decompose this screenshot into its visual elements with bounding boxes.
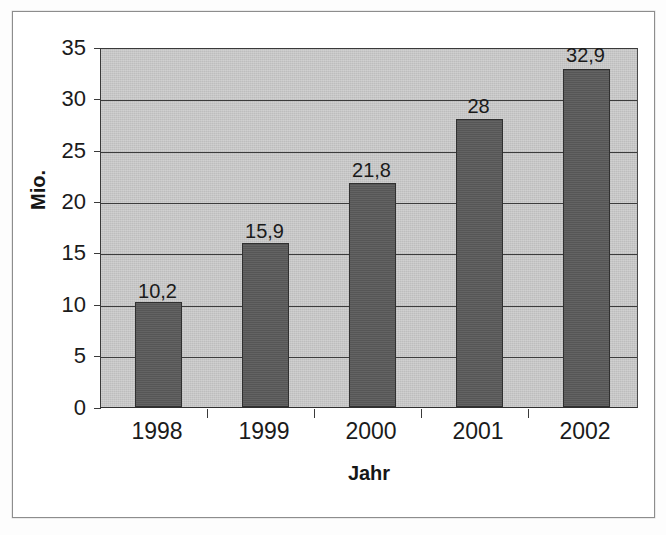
bar-1999 xyxy=(242,243,289,407)
y-tick-label-0: 0 xyxy=(40,397,86,419)
figure-container: 10,2 15,9 21,8 28 32,9 35 30 25 20 15 10… xyxy=(0,0,666,535)
x-tick-label-2000: 2000 xyxy=(311,418,431,444)
bar-value-label-1998: 10,2 xyxy=(94,281,221,301)
x-tick-mark-2 xyxy=(314,409,315,418)
x-tick-mark-3 xyxy=(421,409,422,418)
y-tick-label-30: 30 xyxy=(40,88,86,110)
x-tick-mark-4 xyxy=(528,409,529,418)
y-tick-mark-15 xyxy=(94,253,101,254)
x-tick-label-2001: 2001 xyxy=(418,418,538,444)
x-tick-label-1998: 1998 xyxy=(97,418,217,444)
bar-value-label-2000: 21,8 xyxy=(308,160,435,180)
bar-2000 xyxy=(349,183,396,407)
y-tick-label-10: 10 xyxy=(40,294,86,316)
bar-2001 xyxy=(456,119,503,407)
bar-value-label-2002: 32,9 xyxy=(522,45,649,65)
y-tick-label-5: 5 xyxy=(40,345,86,367)
y-tick-mark-25 xyxy=(94,151,101,152)
plot-area xyxy=(100,48,638,408)
bar-chart: 10,2 15,9 21,8 28 32,9 35 30 25 20 15 10… xyxy=(0,0,666,535)
y-tick-mark-10 xyxy=(94,305,101,306)
y-tick-mark-35 xyxy=(94,48,101,49)
y-tick-mark-30 xyxy=(94,99,101,100)
x-axis-title: Jahr xyxy=(269,462,469,485)
x-tick-label-2002: 2002 xyxy=(525,418,645,444)
y-tick-label-15: 15 xyxy=(40,242,86,264)
y-axis-title: Mio. xyxy=(27,140,50,240)
y-tick-mark-5 xyxy=(94,356,101,357)
x-tick-mark-1 xyxy=(207,409,208,418)
bar-value-label-1999: 15,9 xyxy=(201,221,328,241)
y-tick-label-35: 35 xyxy=(40,37,86,59)
y-tick-mark-20 xyxy=(94,202,101,203)
y-tick-mark-0 xyxy=(94,408,101,409)
bar-value-label-2001: 28 xyxy=(415,96,542,116)
gridline-25 xyxy=(101,152,637,153)
x-tick-label-1999: 1999 xyxy=(204,418,324,444)
bar-2002 xyxy=(563,69,610,407)
gridline-30 xyxy=(101,100,637,101)
bar-1998 xyxy=(135,302,182,407)
